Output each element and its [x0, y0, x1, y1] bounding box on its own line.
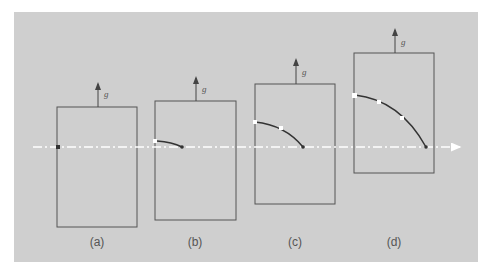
panel-label-c: (c): [275, 235, 315, 249]
light-path-d: [355, 95, 426, 147]
gravity-arrow-icon: [293, 58, 299, 66]
box-c: g: [255, 58, 335, 204]
gravity-arrow-icon: [193, 76, 199, 84]
gravity-label: g: [202, 84, 207, 94]
panel-label-d: (d): [374, 235, 414, 249]
light-path-b: [157, 141, 182, 147]
light-marker-icon: [153, 139, 157, 143]
gravity-arrow-icon: [95, 82, 101, 90]
box-a: g: [57, 82, 137, 227]
panel-label-b: (b): [175, 235, 215, 249]
box-d: g: [354, 28, 434, 173]
light-marker-icon: [352, 93, 357, 98]
equivalence-principle-diagram: g g g g: [0, 0, 490, 275]
gravity-label: g: [302, 67, 307, 77]
light-marker-icon: [279, 126, 283, 130]
box-b: g: [155, 76, 236, 220]
gravity-arrow-icon: [392, 28, 398, 36]
light-marker-icon: [400, 116, 404, 120]
light-marker-icon: [253, 120, 257, 124]
light-path-c: [255, 122, 303, 147]
panel-label-a: (a): [77, 235, 117, 249]
light-entry-point-a: [56, 145, 60, 149]
light-marker-icon: [377, 100, 381, 104]
gravity-label: g: [104, 89, 109, 99]
gravity-label: g: [401, 37, 406, 47]
